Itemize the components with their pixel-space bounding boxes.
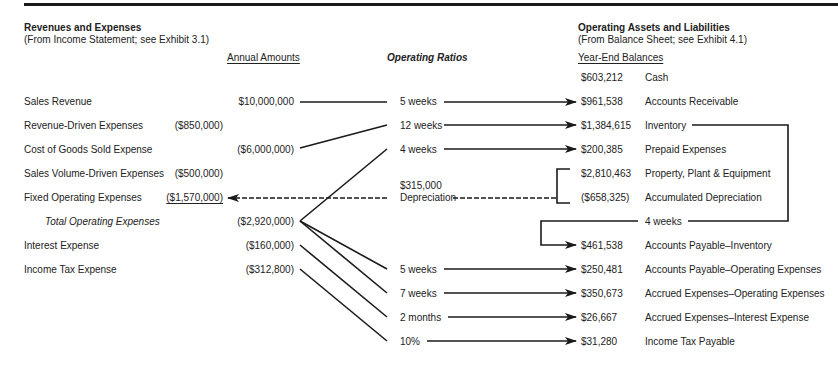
connector-lines	[0, 0, 838, 369]
